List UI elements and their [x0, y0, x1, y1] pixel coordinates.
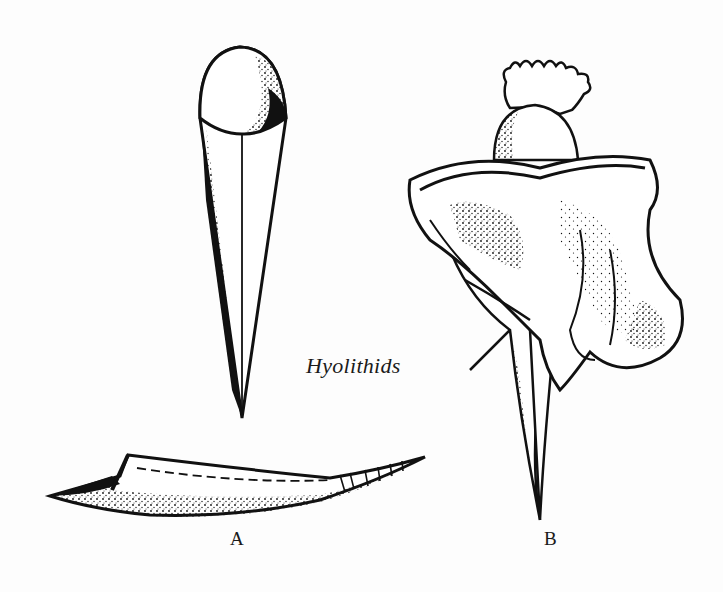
- figure-canvas: Hyolithids A B: [0, 0, 723, 592]
- hyolithid-reconstruction-icon: [409, 61, 682, 520]
- hyolithid-illustration: [0, 0, 723, 592]
- conical-shell-icon: [200, 47, 286, 418]
- lateral-shell-icon: [50, 455, 425, 517]
- label-a: A: [230, 528, 244, 550]
- figure-title: Hyolithids: [306, 353, 401, 379]
- label-b: B: [544, 528, 557, 550]
